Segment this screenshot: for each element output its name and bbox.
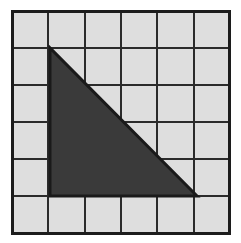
figure-container: Shaded right triangle on a 6 by 6 square… [0,0,241,243]
grid-triangle-figure [0,0,241,243]
